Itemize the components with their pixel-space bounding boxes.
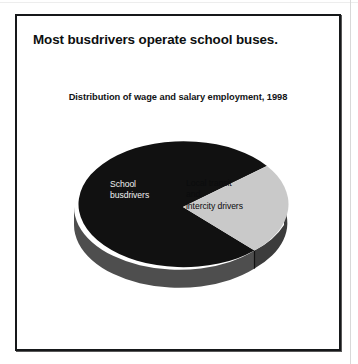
figure-frame: Most busdrivers operate school buses. Di… bbox=[15, 14, 341, 351]
scan-artifact-top-line bbox=[0, 2, 358, 3]
chart-subtitle: Distribution of wage and salary employme… bbox=[17, 92, 339, 102]
scan-artifact-right-line bbox=[350, 0, 351, 364]
pie-label-school-busdrivers: School busdrivers bbox=[110, 179, 149, 202]
pie-chart: School busdrivers Local transit and inte… bbox=[58, 122, 308, 292]
figure-title: Most busdrivers operate school buses. bbox=[33, 32, 325, 48]
pie-label-local-transit: Local transit and intercity drivers bbox=[186, 178, 243, 212]
